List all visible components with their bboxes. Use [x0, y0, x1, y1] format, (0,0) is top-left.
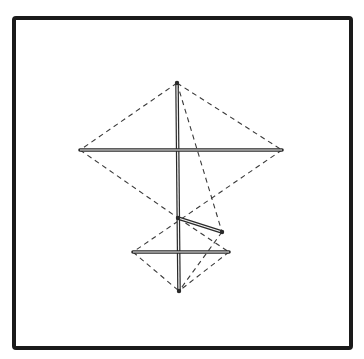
dashed-line — [133, 252, 179, 291]
joint-node — [176, 216, 180, 220]
dashed-line — [177, 83, 222, 232]
dashed-line — [133, 150, 282, 252]
dashed-line — [178, 218, 229, 252]
tilted-strut — [178, 218, 222, 232]
dashed-line — [179, 252, 229, 291]
joint-node — [175, 81, 179, 85]
joint-node — [220, 230, 224, 234]
dashed-line — [179, 232, 222, 291]
joint-node — [177, 289, 181, 293]
dashed-line — [80, 83, 177, 150]
dashed-line — [80, 150, 178, 218]
rods — [80, 81, 282, 293]
dashed-guide-lines — [80, 83, 282, 291]
dashed-line — [177, 83, 282, 150]
kite-diagram — [0, 0, 364, 359]
diagram-frame — [14, 18, 351, 348]
vertical-spine — [177, 83, 179, 291]
